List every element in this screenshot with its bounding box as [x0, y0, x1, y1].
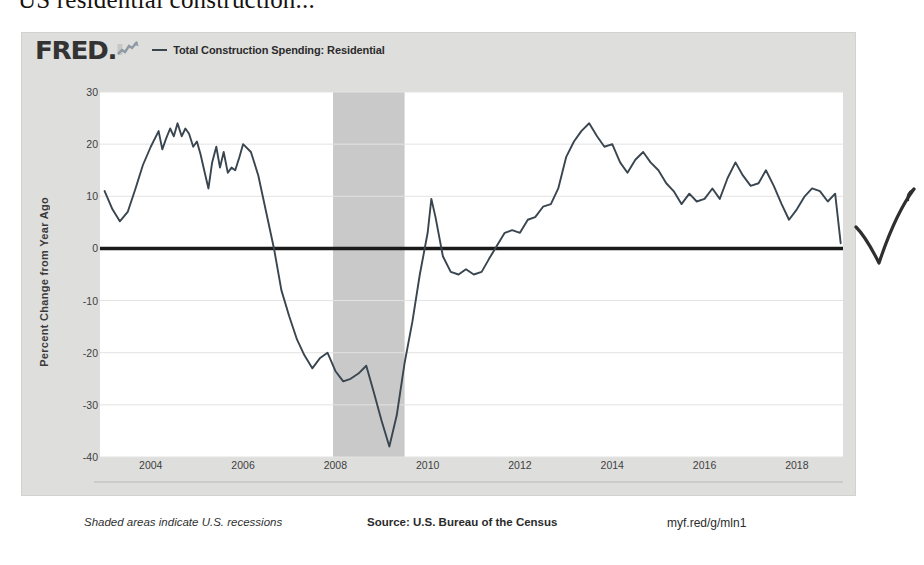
footer-recessions-note: Shaded areas indicate U.S. recessions — [84, 516, 282, 528]
legend-color-swatch — [152, 49, 167, 51]
plot-area: Percent Change from Year Ago 3020100-10-… — [22, 67, 855, 495]
fred-chart-header: FRED. Total Construction Spending: Resid… — [22, 33, 855, 67]
page-heading: US residential construction... — [18, 0, 315, 12]
recession-band — [333, 92, 405, 457]
footer-source: Source: U.S. Bureau of the Census — [367, 516, 557, 528]
fred-logo: FRED. — [35, 38, 116, 63]
chart-legend: Total Construction Spending: Residential — [152, 44, 385, 56]
legend-series-label: Total Construction Spending: Residential — [173, 44, 385, 56]
sparkline-icon — [117, 41, 139, 59]
chart-canvas — [22, 67, 855, 495]
fred-chart-card: FRED. Total Construction Spending: Resid… — [22, 33, 855, 495]
recession-bands — [333, 92, 405, 457]
fred-logo-dot: . — [107, 36, 116, 65]
footer-permalink[interactable]: myf.red/g/mln1 — [667, 516, 746, 530]
fred-logo-text: FRED — [35, 36, 107, 65]
check-mark-annotation — [852, 183, 920, 275]
fred-chart-footer: Shaded areas indicate U.S. recessions So… — [22, 516, 855, 534]
